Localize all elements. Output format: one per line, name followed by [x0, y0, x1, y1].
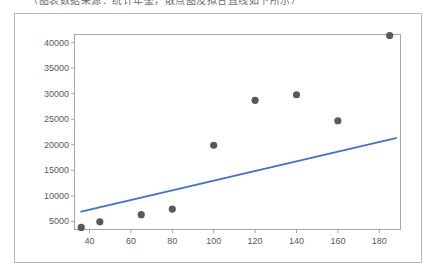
scatter-plot-canvas[interactable] — [0, 0, 437, 275]
trendline[interactable] — [81, 138, 396, 212]
data-point[interactable] — [96, 218, 103, 225]
screenshot-root: （图表数据来源：统计年鉴，散点图及拟合直线如下所示） 5000100001500… — [0, 0, 437, 275]
data-point[interactable] — [78, 224, 85, 231]
data-point[interactable] — [293, 91, 300, 98]
data-point[interactable] — [169, 205, 176, 212]
data-point[interactable] — [334, 117, 341, 124]
data-point[interactable] — [386, 32, 393, 39]
data-point[interactable] — [138, 211, 145, 218]
data-point[interactable] — [210, 142, 217, 149]
data-point[interactable] — [251, 97, 258, 104]
